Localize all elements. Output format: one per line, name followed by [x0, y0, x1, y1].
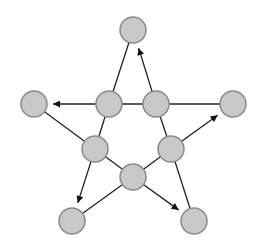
node-top	[120, 17, 146, 43]
node-bottom-right	[181, 208, 207, 234]
node-right	[220, 91, 246, 117]
node-inner-top-left	[96, 91, 122, 117]
node-inner-right	[158, 136, 184, 162]
edges-layer	[34, 30, 233, 221]
graph-diagram	[0, 0, 263, 249]
node-inner-bottom	[120, 164, 146, 190]
node-inner-top-right	[143, 91, 169, 117]
node-left	[21, 91, 47, 117]
node-bottom-left	[59, 208, 85, 234]
node-inner-left	[82, 136, 108, 162]
nodes-layer	[21, 17, 246, 234]
